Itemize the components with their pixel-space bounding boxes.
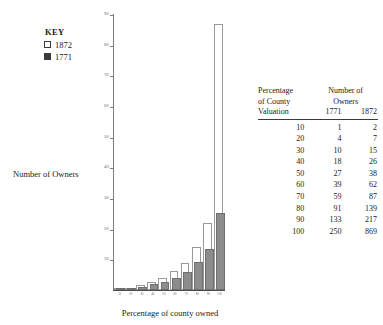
- table-row: 1012: [258, 122, 378, 134]
- y-axis-tick: [110, 138, 114, 139]
- cell-owners-1771: 59: [313, 191, 345, 203]
- cell-owners-1771: 1: [313, 122, 345, 134]
- y-axis-tick: [110, 76, 114, 77]
- y-axis-tick-label: 500: [104, 136, 109, 139]
- table-row: 705987: [258, 191, 378, 203]
- plot-area: 100200300400500600700800900 102030405060…: [113, 14, 225, 291]
- cell-percentage: 60: [258, 179, 313, 191]
- header-percentage-line3: Valuation: [258, 107, 313, 118]
- x-axis-title: Percentage of county owned: [105, 308, 235, 318]
- cell-owners-1771: 10: [313, 145, 345, 157]
- bar-pair: [203, 14, 214, 290]
- x-axis-line: [113, 290, 225, 291]
- cell-owners-1872: 2: [346, 122, 378, 134]
- y-axis-tick: [110, 46, 114, 47]
- y-axis-tick-label: 400: [104, 167, 109, 170]
- cell-owners-1771: 27: [313, 168, 345, 180]
- table-row: 100250869: [258, 226, 378, 238]
- cell-owners-1771: 250: [313, 226, 345, 238]
- cell-owners-1872: 26: [346, 156, 378, 168]
- bar-pair: [136, 14, 147, 290]
- x-axis-tick-label: 100: [214, 293, 225, 296]
- y-axis-tick: [110, 260, 114, 261]
- y-axis-tick-label: 200: [104, 228, 109, 231]
- cell-owners-1771: 39: [313, 179, 345, 191]
- legend-entry-1872: 1872: [44, 39, 72, 50]
- cell-owners-1872: 217: [346, 214, 378, 226]
- table-row: 502738: [258, 168, 378, 180]
- y-axis-tick: [110, 230, 114, 231]
- cell-percentage: 30: [258, 145, 313, 157]
- y-axis-tick-label: 900: [104, 13, 109, 16]
- bar-1771: [216, 213, 225, 290]
- table-row: 301015: [258, 145, 378, 157]
- cell-owners-1872: 62: [346, 179, 378, 191]
- x-axis-tick-label: 20: [125, 293, 136, 296]
- bar-1771: [127, 288, 136, 290]
- bar-1771: [116, 288, 125, 290]
- x-axis-tick-label: 40: [147, 293, 158, 296]
- table-row: 401826: [258, 156, 378, 168]
- bar-pair: [214, 14, 225, 290]
- y-axis-tick-label: 100: [104, 259, 109, 262]
- cell-owners-1872: 87: [346, 191, 378, 203]
- cell-percentage: 90: [258, 214, 313, 226]
- owners-table: Percentage Number of of County Owners Va…: [258, 86, 378, 237]
- bar-1771: [172, 278, 181, 290]
- table-header-row: of County Owners: [258, 97, 378, 108]
- bar-1771: [161, 282, 170, 290]
- bar-pair: [147, 14, 158, 290]
- bar-1771: [183, 272, 192, 290]
- cell-percentage: 70: [258, 191, 313, 203]
- x-axis-tick-label: 90: [203, 293, 214, 296]
- cell-owners-1771: 133: [313, 214, 345, 226]
- legend-entry-1771: 1771: [44, 51, 72, 62]
- x-axis-tick-label: 10: [114, 293, 125, 296]
- y-axis-tick-label: 300: [104, 197, 109, 200]
- table-row: 2047: [258, 133, 378, 145]
- header-percentage-line1: Percentage: [258, 86, 313, 97]
- bar-pair: [114, 14, 125, 290]
- y-axis-tick-label: 800: [104, 44, 109, 47]
- cell-owners-1771: 4: [313, 133, 345, 145]
- legend-swatch-open-icon: [44, 41, 51, 48]
- cell-owners-1771: 91: [313, 203, 345, 215]
- data-table: Percentage Number of of County Owners Va…: [258, 86, 378, 237]
- cell-owners-1771: 18: [313, 156, 345, 168]
- chart-legend: KEY 1872 1771: [44, 27, 72, 62]
- legend-title: KEY: [45, 27, 72, 37]
- cell-percentage: 50: [258, 168, 313, 180]
- y-axis-tick: [110, 15, 114, 16]
- header-owners-line1: Number of: [313, 86, 378, 97]
- legend-label: 1771: [55, 52, 72, 62]
- cell-percentage: 80: [258, 203, 313, 215]
- cell-owners-1872: 869: [346, 226, 378, 238]
- bar-pair: [158, 14, 169, 290]
- table-row: 603962: [258, 179, 378, 191]
- header-year-1872: 1872: [346, 107, 378, 118]
- legend-label: 1872: [55, 40, 72, 50]
- bar-pair: [181, 14, 192, 290]
- cell-percentage: 40: [258, 156, 313, 168]
- table-row: 8091139: [258, 203, 378, 215]
- legend-swatch-solid-icon: [44, 53, 51, 60]
- cell-owners-1872: 15: [346, 145, 378, 157]
- cell-owners-1872: 7: [346, 133, 378, 145]
- table-header-row: Percentage Number of: [258, 86, 378, 97]
- y-axis-tick: [110, 199, 114, 200]
- cell-owners-1872: 139: [346, 203, 378, 215]
- x-axis-tick-label: 30: [136, 293, 147, 296]
- bar-group-container: [114, 14, 225, 290]
- y-axis-tick: [110, 168, 114, 169]
- bar-pair: [170, 14, 181, 290]
- y-axis-tick-label: 700: [104, 75, 109, 78]
- bar-pair: [192, 14, 203, 290]
- header-owners-line2: Owners: [313, 97, 378, 108]
- header-percentage-line2: of County: [258, 97, 313, 108]
- y-axis-tick-label: 600: [104, 105, 109, 108]
- bar-1771: [150, 284, 159, 290]
- bar-pair: [125, 14, 136, 290]
- y-axis-title: Number of Owners: [13, 169, 79, 179]
- cell-percentage: 10: [258, 122, 313, 134]
- table-row: 90133217: [258, 214, 378, 226]
